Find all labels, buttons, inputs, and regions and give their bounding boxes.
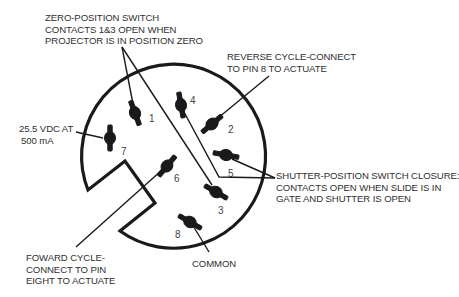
pin-number-3: 3: [218, 205, 224, 216]
pin-number-7: 7: [121, 146, 127, 157]
label-common: COMMON: [192, 258, 236, 270]
pin-4: [173, 91, 188, 119]
label-power: 25.5 VDC AT 500 mA: [19, 123, 73, 146]
pin-1: [125, 99, 144, 127]
leader-power-to-pin7: [76, 132, 103, 138]
label-forward-cycle: FOWARD CYCLE- CONNECT TO PIN EIGHT TO AC…: [26, 252, 115, 287]
leader-reverse-to-pin2: [218, 76, 269, 118]
pin-number-1: 1: [149, 113, 155, 124]
pin-3: [202, 181, 230, 204]
label-shutter-position: SHUTTER-POSITION SWITCH CLOSURE: CONTACT…: [276, 170, 459, 205]
pin-number-6: 6: [174, 173, 180, 184]
pin-number-2: 2: [228, 124, 234, 135]
pin-number-8: 8: [175, 229, 181, 240]
pin-7: [105, 125, 116, 151]
label-zero-position: ZERO-POSITION SWITCH CONTACTS 1&3 OPEN W…: [45, 12, 203, 47]
label-reverse-cycle: REVERSE CYCLE-CONNECT TO PIN 8 TO ACTUAT…: [227, 51, 356, 74]
leader-shutter-to-pin5: [232, 159, 275, 178]
pin-number-4: 4: [190, 95, 196, 106]
